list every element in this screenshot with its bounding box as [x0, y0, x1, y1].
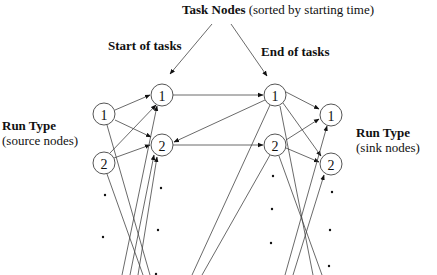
source-node-2: 2 — [93, 152, 115, 174]
svg-text:1: 1 — [328, 109, 335, 124]
end-node-1: 1 — [264, 84, 286, 106]
graph-canvas: 1 2 1 2 1 2 1 2 — [0, 0, 437, 275]
edge-end2-sink1 — [286, 119, 319, 140]
start-node-2: 2 — [151, 134, 173, 156]
start-node-1: 1 — [151, 84, 173, 106]
edge-lower-sink1 — [285, 126, 327, 275]
ellipsis-dots — [102, 175, 333, 275]
edge-end1-start2 — [174, 100, 265, 142]
end-node-2: 2 — [264, 134, 286, 156]
title-pointer-start — [170, 24, 212, 74]
svg-text:2: 2 — [101, 157, 108, 172]
svg-text:2: 2 — [159, 139, 166, 154]
edge-end2-down — [202, 155, 270, 275]
edge-end1-down-right — [280, 106, 313, 275]
sink-node-1: 1 — [320, 104, 342, 126]
source-node-1: 1 — [93, 103, 115, 125]
edge-end1-sink1 — [286, 92, 319, 109]
edge-src2-start2 — [114, 145, 150, 158]
edge-lower-sink2 — [293, 175, 324, 275]
svg-text:2: 2 — [328, 158, 335, 173]
edge-end1-down — [192, 105, 270, 275]
svg-text:1: 1 — [159, 89, 166, 104]
title-pointer-end — [231, 24, 267, 76]
edge-end2-sink2 — [286, 148, 319, 162]
edge-src1-start1 — [115, 95, 150, 110]
svg-text:1: 1 — [101, 108, 108, 123]
sink-node-2: 2 — [320, 153, 342, 175]
svg-text:1: 1 — [272, 89, 279, 104]
edge-lower-start2b — [138, 157, 157, 275]
svg-text:2: 2 — [272, 139, 279, 154]
edge-lower-start2a — [130, 155, 154, 275]
edge-end2-down-right — [279, 156, 322, 275]
